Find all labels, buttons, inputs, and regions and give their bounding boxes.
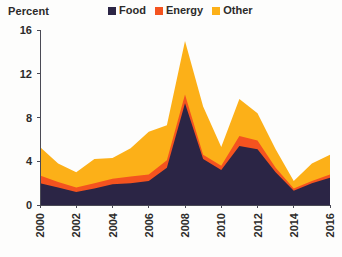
- y-tick-label: 12: [20, 68, 32, 80]
- chart-header: Percent FoodEnergyOther: [0, 0, 342, 26]
- x-tick-label: 2010: [215, 213, 227, 237]
- legend-item-other: Other: [212, 5, 252, 16]
- legend-swatch-icon: [155, 7, 163, 15]
- x-tick-label: 2008: [179, 213, 191, 237]
- x-tick-label: 2004: [107, 212, 119, 237]
- legend-label: Energy: [166, 5, 203, 16]
- x-tick-label: 2002: [70, 213, 82, 237]
- x-tick-label: 2006: [143, 213, 155, 237]
- x-tick-label: 2000: [34, 213, 46, 237]
- legend-label: Food: [119, 5, 146, 16]
- legend-item-energy: Energy: [155, 5, 203, 16]
- x-tick-label: 2016: [324, 213, 336, 237]
- y-tick-label: 4: [26, 155, 33, 167]
- x-tick-label: 2012: [252, 213, 264, 237]
- legend-item-food: Food: [108, 5, 146, 16]
- y-tick-label: 0: [26, 199, 32, 211]
- stacked-area-chart: 0481216200020022004200620082010201220142…: [0, 26, 342, 257]
- y-tick-label: 8: [26, 112, 32, 124]
- x-tick-label: 2014: [288, 212, 300, 237]
- plot-area: 0481216200020022004200620082010201220142…: [0, 26, 342, 257]
- y-axis-unit-label: Percent: [8, 5, 49, 17]
- chart-screenshot: Percent FoodEnergyOther 0481216200020022…: [0, 0, 342, 257]
- legend-swatch-icon: [108, 7, 116, 15]
- legend-swatch-icon: [212, 7, 220, 15]
- legend-label: Other: [223, 5, 252, 16]
- chart-legend: FoodEnergyOther: [108, 5, 253, 16]
- y-tick-label: 16: [20, 26, 32, 36]
